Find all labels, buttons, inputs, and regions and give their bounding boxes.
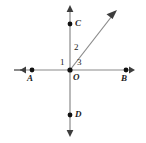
point-a-label: A [27, 74, 33, 83]
geometry-figure: A B C D O 1 2 3 [0, 0, 146, 143]
point-c-label: C [75, 19, 81, 28]
vertical-line-arrow-up-icon [67, 5, 74, 12]
ray-arrow-icon [107, 10, 118, 19]
angle-1-label: 1 [60, 58, 65, 67]
point-a-dot [30, 68, 35, 73]
point-c-dot [68, 22, 73, 27]
point-b-dot [124, 68, 129, 73]
point-o-label: O [73, 73, 80, 82]
point-d-dot [68, 113, 73, 118]
horizontal-line-arrow-right-icon [129, 67, 135, 74]
angle-3-label: 3 [77, 58, 82, 67]
point-o-dot [67, 67, 72, 72]
angle-2-label: 2 [74, 43, 79, 52]
vertical-line-arrow-down-icon [67, 130, 74, 137]
point-b-label: B [121, 74, 127, 83]
point-d-label: D [75, 110, 82, 119]
